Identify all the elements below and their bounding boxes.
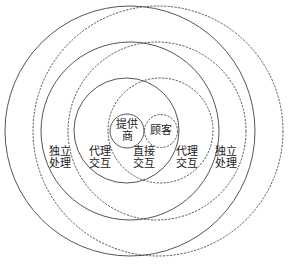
provider-label: 提供 商 [116,119,138,143]
direct-interaction-line2: 交互 [133,158,155,170]
independent-processing-left-line2: 处理 [49,158,71,170]
independent-processing-left-label: 独立 处理 [49,146,71,170]
agent-interaction-right-label: 代理 交互 [176,146,198,170]
agent-interaction-left-line2: 交互 [89,158,111,170]
customer-label: 顾客 [150,125,172,137]
independent-processing-right-line2: 处理 [215,158,237,170]
agent-interaction-left-label: 代理 交互 [89,146,111,170]
customer-label-line1: 顾客 [150,125,172,137]
provider-label-line2: 商 [116,131,138,143]
direct-interaction-label: 直接 交互 [133,146,155,170]
independent-processing-right-label: 独立 处理 [215,146,237,170]
agent-interaction-right-line2: 交互 [176,158,198,170]
nested-circles-diagram [0,0,288,270]
